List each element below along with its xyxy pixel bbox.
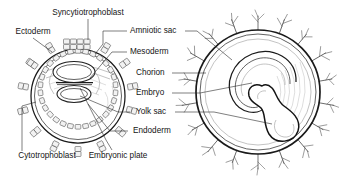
- leader-embryo: [172, 83, 252, 93]
- label-ectoderm: Ectoderm: [15, 27, 50, 36]
- embryo-yolk-sac-body: [249, 85, 299, 141]
- label-chorion: Chorion: [136, 68, 165, 77]
- label-yolk-sac: Yolk sac: [136, 107, 166, 116]
- embryology-diagram: Syncytiotrophoblast Ectoderm Amniotic sa…: [0, 0, 339, 181]
- embryonic-disc-group: [49, 62, 100, 103]
- label-cytotrophoblast: Cytotrophoblast: [18, 151, 76, 160]
- embryo-amnion-group: [229, 52, 299, 142]
- label-endoderm: Endoderm: [133, 126, 171, 135]
- leader-yolk-sac-right: [175, 112, 272, 124]
- label-syncytiotrophoblast: Syncytiotrophoblast: [52, 8, 124, 17]
- villus-top-mass: [64, 39, 91, 49]
- leader-amniotic-sac-left: [95, 31, 127, 54]
- label-mesoderm: Mesoderm: [130, 47, 169, 56]
- right-diagram-chorionic-vesicle: [175, 10, 339, 175]
- label-embryonic-plate: Embryonic plate: [89, 151, 148, 160]
- left-diagram-blastocyst: [17, 39, 138, 157]
- label-embryo: Embryo: [136, 88, 165, 97]
- label-amniotic-sac: Amniotic sac: [130, 26, 176, 35]
